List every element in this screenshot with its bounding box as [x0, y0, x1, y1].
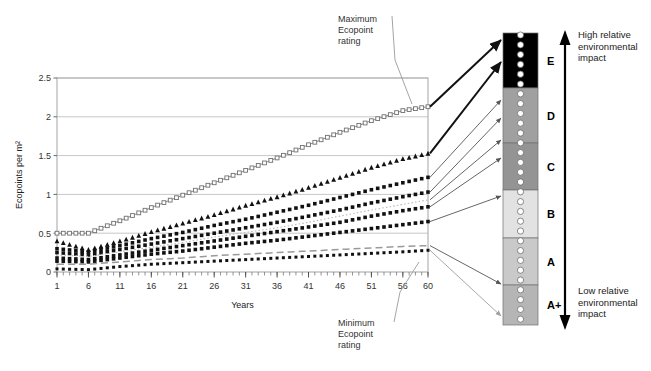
rating-band-label-a: A — [547, 256, 555, 268]
series-marker — [376, 117, 380, 121]
series-marker — [294, 236, 298, 240]
series-marker — [401, 250, 404, 253]
series-marker — [144, 263, 147, 266]
series-marker — [288, 256, 291, 259]
series-marker — [282, 209, 286, 213]
rating-scale-dot — [517, 81, 523, 87]
impact-arrow-head-up — [560, 30, 571, 45]
series-marker — [212, 239, 216, 243]
series-marker — [68, 260, 72, 264]
series-marker — [370, 188, 374, 192]
series-marker — [231, 173, 235, 177]
series-marker — [238, 242, 242, 246]
series-marker — [187, 236, 191, 240]
y-tick-label: 0.5 — [38, 229, 51, 239]
x-tick-label: 16 — [146, 281, 156, 291]
rating-band-label-e: E — [547, 55, 554, 67]
series-marker — [181, 237, 185, 241]
series-marker — [351, 205, 355, 209]
series-marker — [307, 225, 311, 229]
series-marker — [332, 231, 336, 235]
series-marker — [162, 240, 166, 244]
series-marker — [414, 178, 418, 182]
mapping-arrow-maximum — [430, 40, 501, 107]
mapping-arrow-2 — [430, 62, 501, 153]
series-marker — [131, 264, 134, 267]
series-marker — [131, 214, 135, 218]
series-marker — [414, 250, 417, 253]
series-marker — [319, 233, 323, 237]
rating-band-label-d: D — [547, 110, 555, 122]
series-marker — [55, 256, 59, 260]
high-impact-label-line: environmental — [578, 41, 638, 52]
series-marker — [175, 245, 179, 249]
low-impact-label-line: impact — [578, 308, 606, 319]
figure-svg: 00.511.522.5161116212631364146515660Year… — [0, 0, 651, 371]
series-marker — [124, 242, 128, 246]
rating-scale-dot — [517, 42, 523, 48]
series-marker — [231, 228, 235, 232]
series-marker — [269, 212, 273, 216]
series-marker — [231, 243, 235, 247]
series-marker — [320, 254, 323, 257]
series-marker — [344, 230, 348, 234]
series-marker — [81, 268, 84, 271]
rating-scale-dot — [517, 248, 523, 254]
y-tick-label: 1 — [46, 190, 51, 200]
series-marker — [55, 251, 59, 255]
mapping-arrows-group — [430, 40, 501, 316]
series-marker — [112, 221, 116, 225]
series-marker — [168, 198, 172, 202]
series-marker — [326, 199, 330, 203]
series-marker — [407, 208, 411, 212]
series-marker — [414, 193, 418, 197]
rating-scale-dot — [517, 218, 523, 224]
series-marker — [225, 244, 229, 248]
series-marker — [344, 207, 348, 211]
series-marker — [294, 256, 297, 259]
series-marker — [61, 248, 65, 252]
series-marker — [301, 255, 304, 258]
series-marker — [156, 252, 160, 256]
annotation-maximum-line: Maximum — [338, 14, 377, 24]
x-tick-label: 21 — [178, 281, 188, 291]
series-marker — [275, 156, 279, 160]
series-marker — [332, 197, 336, 201]
series-marker — [55, 231, 59, 235]
rating-scale-dot — [517, 52, 523, 58]
series-marker — [256, 224, 260, 228]
y-tick-label: 0 — [46, 267, 51, 277]
series-marker — [363, 121, 367, 125]
series-marker — [269, 159, 273, 163]
series-marker — [162, 247, 166, 251]
series-marker — [351, 126, 355, 130]
series-marker — [420, 177, 424, 181]
series-marker — [388, 211, 392, 215]
series-marker — [118, 265, 121, 268]
series-marker — [206, 183, 210, 187]
series-marker — [232, 259, 235, 262]
series-marker — [263, 257, 266, 260]
series-marker — [162, 262, 165, 265]
series-marker — [414, 107, 418, 111]
series-marker — [382, 115, 386, 119]
series-marker — [124, 252, 128, 256]
series-marker — [426, 205, 430, 209]
series-marker — [225, 229, 229, 233]
series-marker — [187, 191, 191, 195]
series-marker — [313, 140, 317, 144]
series-marker — [319, 212, 323, 216]
rating-band-label-b: B — [547, 208, 555, 220]
series-marker — [194, 248, 198, 252]
series-marker — [395, 251, 398, 254]
series-marker — [150, 252, 154, 256]
series-marker — [55, 259, 59, 263]
rating-scale-dot — [517, 316, 523, 322]
series-marker — [61, 259, 65, 263]
series-marker — [407, 222, 411, 226]
rating-scale-dot — [517, 32, 523, 38]
series-marker — [426, 105, 430, 109]
high-impact-label-line: impact — [578, 52, 606, 63]
series-marker — [370, 201, 374, 205]
series-marker — [364, 252, 367, 255]
